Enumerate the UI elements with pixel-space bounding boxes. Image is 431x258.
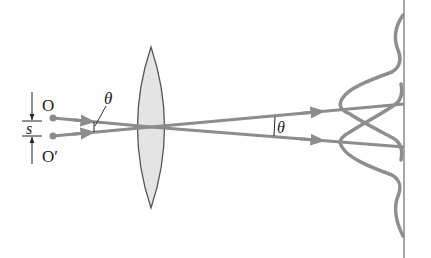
- diffraction-pattern-O-prime: [340, 15, 403, 160]
- label-O-prime: O′: [42, 147, 58, 166]
- label-O: O: [42, 96, 54, 115]
- point-source-O-prime: [50, 133, 57, 140]
- resolution-diagram: O O′ s θ θ: [0, 0, 431, 258]
- label-theta-image: θ: [277, 119, 285, 136]
- label-s: s: [26, 120, 32, 137]
- point-source-O: [50, 115, 57, 122]
- angle-arc-image-side: [274, 117, 275, 136]
- label-theta-object: θ: [104, 89, 112, 108]
